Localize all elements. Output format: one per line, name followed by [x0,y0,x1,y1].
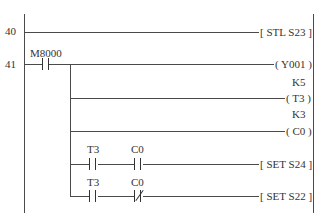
t3-contact-label-2: T3 [87,176,99,188]
stl-s23-instruction: [ STL S23 ] [259,26,313,38]
set-s24-instruction: [ SET S24 ] [259,158,313,170]
t3-contact-no-1 [89,158,99,170]
t3-coil: ( T3 ) [285,92,312,104]
y001-coil: ( Y001 ) [274,58,313,70]
branch-t3-line [70,98,288,99]
rung-41-line-left [24,64,42,65]
step-number-40: 40 [5,25,16,37]
right-power-rail [313,14,314,213]
c0-contact-no [134,158,144,170]
branch-bus [70,64,71,196]
left-power-rail [24,14,25,213]
c0-contact-label-1: C0 [131,143,144,155]
rung-41-line-right [49,64,277,65]
step-number-41: 41 [5,58,16,70]
set-s22-instruction: [ SET S22 ] [259,190,313,202]
rung-40-line [24,32,261,33]
k5-preset: K5 [292,76,305,88]
c0-contact-nc [134,190,144,202]
t3-contact-label-1: T3 [87,143,99,155]
branch-c0-line [70,131,288,132]
c0-coil: ( C0 ) [285,125,313,137]
c0-contact-label-2: C0 [131,176,144,188]
t3-contact-no-2 [89,190,99,202]
k3-preset: K3 [292,108,305,120]
